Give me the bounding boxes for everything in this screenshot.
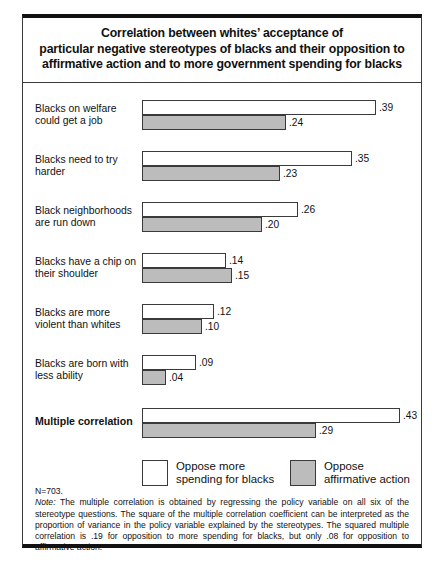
bar-value-label: .09 [199,357,213,368]
chart-plot-area: Blacks on welfarecould get a job.39.24Bl… [23,83,421,487]
category-label-line-1: Blacks have a chip on [35,256,145,269]
legend-label-line-2: affirmative action [324,473,410,486]
category-label: Black neighborhoodsare run down [35,205,145,230]
category-label-line-1: Blacks on welfare [35,103,145,116]
bar-oppose-spending: .26 [142,202,298,217]
chart-title-line-1: Correlation between whites’ acceptance o… [33,26,411,42]
note-body: The multiple correlation is obtained by … [35,497,409,552]
legend-label-line-2: spending for blacks [176,473,274,486]
bar-group: Blacks need to tryharder.35.23 [23,145,421,196]
chart-title-line-2: particular negative stereotypes of black… [33,42,411,58]
category-label: Multiple correlation [35,415,145,428]
bar-value-label: .15 [235,270,249,281]
category-label-line-2: violent than whites [35,319,145,332]
footnote: N=703. Note: The multiple correlation is… [23,486,421,559]
bar-value-label: .20 [265,219,279,230]
bar-value-label: .23 [283,168,297,179]
category-label: Blacks are born withless ability [35,358,145,383]
bar-pair: .12.10 [142,304,214,334]
bar-oppose-spending: .09 [142,355,196,370]
bar-pair: .09.04 [142,355,196,385]
category-label-line-1: Blacks are more [35,307,145,320]
bar-pair: .43.29 [142,408,400,438]
bar-oppose-spending: .39 [142,100,376,115]
bar-group: Multiple correlation.43.29 [23,400,421,454]
bar-oppose-spending: .43 [142,408,400,423]
legend-item: Oppose morespending for blacks [142,460,290,487]
chart-title: Correlation between whites’ acceptance o… [23,18,421,83]
category-label-line-1: Blacks are born with [35,358,145,371]
category-label-line-1: Blacks need to try [35,154,145,167]
bar-oppose-spending: .14 [142,253,226,268]
category-label: Blacks are moreviolent than whites [35,307,145,332]
bar-oppose-affirmative-action: .04 [142,370,166,385]
legend-label-line-1: Oppose more [176,460,274,473]
category-label-line-2: their shoulder [35,268,145,281]
bar-value-label: .14 [229,255,243,266]
bar-oppose-affirmative-action: .24 [142,115,286,130]
category-label-line-2: harder [35,166,145,179]
bar-pair: .26.20 [142,202,298,232]
note-label: Note: [35,497,56,507]
bar-value-label: .26 [301,204,315,215]
bar-value-label: .43 [403,410,417,421]
legend-label: Oppose morespending for blacks [176,460,274,487]
methodology-note: Note: The multiple correlation is obtain… [35,497,409,553]
category-label-line-1: Multiple correlation [35,415,145,428]
bar-oppose-spending: .35 [142,151,352,166]
category-label: Blacks on welfarecould get a job [35,103,145,128]
bar-group: Blacks have a chip ontheir shoulder.14.1… [23,247,421,298]
sample-size-note: N=703. [35,486,409,497]
bar-group: Blacks are born withless ability.09.04 [23,349,421,400]
chart-legend: Oppose morespending for blacksOpposeaffi… [142,460,421,487]
bar-oppose-affirmative-action: .10 [142,319,202,334]
bar-oppose-affirmative-action: .23 [142,166,280,181]
bar-value-label: .29 [319,425,333,436]
bar-value-label: .35 [355,153,369,164]
legend-swatch [290,460,316,486]
bar-oppose-affirmative-action: .29 [142,423,316,438]
bar-pair: .39.24 [142,100,376,130]
legend-item: Opposeaffirmative action [290,460,410,487]
bar-pair: .35.23 [142,151,352,181]
bar-value-label: .24 [289,117,303,128]
category-label-line-1: Black neighborhoods [35,205,145,218]
bar-group: Blacks on welfarecould get a job.39.24 [23,94,421,145]
category-label-line-2: are run down [35,217,145,230]
bar-pair: .14.15 [142,253,232,283]
category-label: Blacks have a chip ontheir shoulder [35,256,145,281]
bar-group: Blacks are moreviolent than whites.12.10 [23,298,421,349]
figure-panel: Correlation between whites’ acceptance o… [22,14,422,548]
category-label-line-2: could get a job [35,115,145,128]
legend-swatch [142,460,168,486]
chart-title-line-3: affirmative action and to more governmen… [33,57,411,73]
legend-label: Opposeaffirmative action [324,460,410,487]
bar-oppose-affirmative-action: .20 [142,217,262,232]
bar-value-label: .39 [379,102,393,113]
category-label-line-2: less ability [35,370,145,383]
bar-group: Black neighborhoodsare run down.26.20 [23,196,421,247]
bar-oppose-spending: .12 [142,304,214,319]
bar-value-label: .04 [169,372,183,383]
category-label: Blacks need to tryharder [35,154,145,179]
bar-oppose-affirmative-action: .15 [142,268,232,283]
bar-value-label: .10 [205,321,219,332]
bar-value-label: .12 [217,306,231,317]
legend-label-line-1: Oppose [324,460,410,473]
